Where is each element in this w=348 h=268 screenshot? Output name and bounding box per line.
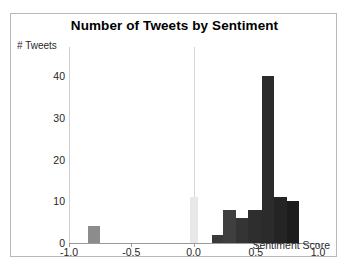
y-tick-label: 30 bbox=[43, 112, 65, 124]
y-axis-title: # Tweets bbox=[17, 40, 57, 51]
plot-area: 010203040 -1.0-0.50.00.51.0 bbox=[69, 47, 318, 244]
histogram-bar bbox=[190, 197, 199, 243]
chart-frame: Number of Tweets by Sentiment # Tweets 0… bbox=[10, 13, 337, 257]
screenshot-root: Number of Tweets by Sentiment # Tweets 0… bbox=[0, 0, 348, 268]
x-tick-label: -1.0 bbox=[60, 246, 78, 258]
histogram-bar bbox=[236, 218, 248, 243]
chart-title: Number of Tweets by Sentiment bbox=[11, 18, 338, 33]
bar-series bbox=[69, 47, 318, 244]
histogram-bar bbox=[212, 235, 223, 243]
x-tick-label: 0.0 bbox=[186, 246, 201, 258]
x-tick-label: -0.5 bbox=[122, 246, 140, 258]
y-tick-label: 40 bbox=[43, 70, 65, 82]
histogram-bar bbox=[287, 201, 299, 243]
histogram-bar bbox=[262, 76, 274, 243]
histogram-bar bbox=[274, 197, 286, 243]
y-tick-label: 10 bbox=[43, 195, 65, 207]
histogram-bar bbox=[248, 210, 262, 243]
histogram-bar bbox=[223, 210, 235, 243]
x-axis-title: Sentiment Score bbox=[252, 239, 330, 251]
histogram-bar bbox=[88, 226, 100, 243]
y-tick-label: 20 bbox=[43, 154, 65, 166]
